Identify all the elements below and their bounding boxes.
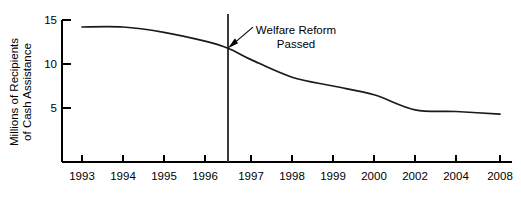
y-tick-label-10: 10 — [44, 58, 57, 70]
x-tick-label-2004: 2004 — [443, 170, 469, 182]
y-axis-title-line2: of Cash Assistance — [21, 43, 33, 141]
chart-container: 15 10 5 Millions of Recipients of Cash A… — [0, 0, 521, 200]
y-axis-title-line1: Millions of Recipients — [8, 38, 20, 146]
x-tick-label-1994: 1994 — [110, 170, 136, 182]
welfare-reform-label-line2: Passed — [277, 38, 315, 50]
x-tick-label-1999: 1999 — [320, 170, 346, 182]
line-chart: 15 10 5 Millions of Recipients of Cash A… — [0, 0, 521, 200]
x-tick-label-2002: 2002 — [402, 170, 428, 182]
y-axis-title: Millions of Recipients of Cash Assistanc… — [8, 38, 33, 146]
x-tick-label-1996: 1996 — [192, 170, 218, 182]
x-tick-label-2000: 2000 — [361, 170, 387, 182]
welfare-reform-label-line1: Welfare Reform — [256, 24, 336, 36]
x-tick-label-1997: 1997 — [238, 170, 264, 182]
y-tick-label-15: 15 — [44, 14, 57, 26]
x-tick-label-1998: 1998 — [279, 170, 305, 182]
x-tick-label-1995: 1995 — [151, 170, 177, 182]
y-tick-label-5: 5 — [51, 102, 57, 114]
x-tick-label-2008: 2008 — [487, 170, 513, 182]
x-tick-label-1993: 1993 — [69, 170, 95, 182]
